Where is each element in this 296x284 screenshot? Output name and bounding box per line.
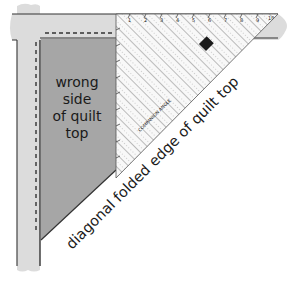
ruler-tick-6: 6 <box>208 17 211 23</box>
wrong-side-label-line-4: top <box>66 125 89 141</box>
wrong-side-label-line-1: wrong <box>55 74 98 90</box>
ruler-tick-2: 2 <box>144 17 147 23</box>
ruler-tick-8: 8 <box>240 17 243 23</box>
ruler-tick-1: 1 <box>128 17 131 23</box>
wrong-side-label-line-2: side <box>63 91 92 107</box>
quilt-corner-diagram: 1 2 3 4 5 6 7 8 9 10 COMPANION ANGLE EZ … <box>0 0 296 284</box>
ruler-tick-3: 3 <box>160 17 163 23</box>
ruler-tick-9: 9 <box>256 17 259 23</box>
ruler-tick-4: 4 <box>176 17 179 23</box>
ruler-tick-5: 5 <box>192 17 195 23</box>
angle-ruler: 1 2 3 4 5 6 7 8 9 10 COMPANION ANGLE EZ <box>116 14 278 178</box>
ruler-tick-7: 7 <box>224 17 227 23</box>
wrong-side-label-line-3: of quilt <box>53 108 102 124</box>
